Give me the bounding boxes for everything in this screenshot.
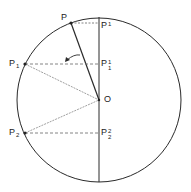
label-P2-projection: P22 <box>101 128 111 140</box>
label-P-projection: P1 <box>101 21 111 30</box>
diagram-canvas <box>0 0 191 192</box>
label-P1-projection: P11 <box>101 59 111 71</box>
label-P: P <box>61 13 67 22</box>
label-P2: P2 <box>9 128 19 138</box>
point-P1 <box>23 62 26 65</box>
point-P <box>69 21 72 24</box>
dashed-P2-to-O <box>25 100 99 133</box>
label-P1: P1 <box>9 59 19 69</box>
point-P2 <box>23 131 26 134</box>
point-O <box>98 99 100 101</box>
label-O: O <box>104 95 111 104</box>
